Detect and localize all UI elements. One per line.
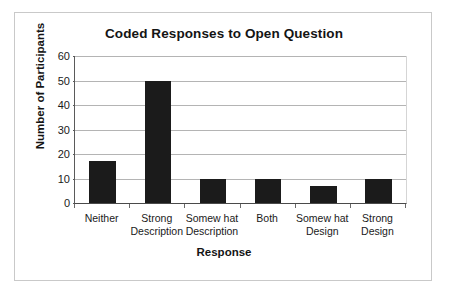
x-axis-tick-label-line: Somew hat [184,212,239,225]
x-axis-tick-mark [240,204,241,208]
bar[interactable] [310,186,336,203]
x-axis-tick-label: Somew hatDesign [295,212,350,237]
plot-area [74,56,407,204]
x-axis-tick-label: Neither [74,212,129,237]
x-axis-tick-label-line: Description [129,225,184,238]
bar-slot [241,56,296,203]
x-axis-tick-label-line: Design [350,225,405,238]
x-axis-tick-label-line: Somew hat [295,212,350,225]
bar[interactable] [365,179,391,204]
x-axis-tick-labels: NeitherStrongDescriptionSomew hatDescrip… [74,212,405,237]
x-axis-tick-mark [405,204,406,208]
x-axis-tick-label-line: Description [184,225,239,238]
x-axis-tick-label-line: Strong [129,212,184,225]
x-axis-tick-label-line: Design [295,225,350,238]
x-axis-tick-label: StrongDesign [350,212,405,237]
bar-slot [130,56,185,203]
x-axis-tick-label-line: Neither [74,212,129,225]
x-axis-tick-mark [129,204,130,208]
bar-slot [185,56,240,203]
x-axis-tick-label: Both [240,212,295,237]
bar[interactable] [145,81,171,204]
x-axis-tick-mark [184,204,185,208]
chart-frame: Coded Responses to Open Question Number … [14,12,432,281]
x-axis-tick-mark [74,204,75,208]
bar[interactable] [89,161,115,203]
x-axis-tick-mark [295,204,296,208]
x-axis-tick-label-line: Strong [350,212,405,225]
bar-series [75,56,406,203]
x-axis-title: Response [15,246,433,258]
bar-slot [296,56,351,203]
chart-title: Coded Responses to Open Question [15,26,433,41]
x-axis-tick-label: Somew hatDescription [184,212,239,237]
x-axis-tick-label: StrongDescription [129,212,184,237]
bar[interactable] [200,179,226,204]
bar-slot [351,56,406,203]
x-axis-tick-marks [74,204,406,209]
bar-slot [75,56,130,203]
x-axis-tick-label-line: Both [240,212,295,225]
bar[interactable] [255,179,281,204]
x-axis-tick-mark [350,204,351,208]
